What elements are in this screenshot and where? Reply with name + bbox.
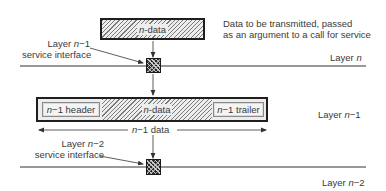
frame-trailer-box: n−1 trailer — [213, 102, 264, 117]
n1-data-span-label: n−1 data — [130, 124, 171, 135]
n1-frame: n-data n−1 header n−1 trailer — [36, 97, 268, 122]
frame-data-region: n-data — [102, 99, 212, 120]
transmit-annotation: Data to be transmitted, passed as an arg… — [223, 18, 371, 40]
layer-n-label: Layer n — [330, 52, 362, 63]
lower-interface-label: Layer n−2 service interface — [28, 138, 104, 160]
upper-service-interface-icon — [146, 58, 161, 73]
frame-n-data-label: n-data — [142, 104, 173, 115]
top-n-data-box: n-data — [100, 18, 205, 40]
lower-service-interface-icon — [146, 159, 161, 175]
transmit-annotation-line1: Data to be transmitted, passed — [223, 18, 371, 29]
layer-n2-label: Layer n−2 — [322, 177, 365, 188]
transmit-annotation-line2: as an argument to a call for service — [223, 29, 371, 40]
top-n-data-label: n-data — [137, 24, 168, 35]
frame-header-box: n−1 header — [42, 102, 100, 117]
layer-n1-label: Layer n−1 — [318, 109, 361, 120]
upper-interface-label: Layer n−1 service interface — [22, 38, 90, 60]
